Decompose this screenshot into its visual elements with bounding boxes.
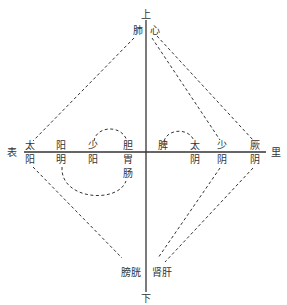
yang-yangming-bottom: 明 (56, 154, 66, 165)
label-right: 里 (271, 147, 281, 158)
organ-gallbladder: 胆 (123, 140, 133, 151)
six-channels-diagram: 上 下 表 里 肺 心 膀胱 肾肝 太 阳 阳 明 少 阳 胆 胃 肠 脾 太 … (0, 0, 287, 305)
label-left: 表 (7, 146, 17, 158)
yin-jueyin-bottom: 阴 (250, 154, 260, 165)
link-heart-shaoyin (152, 38, 220, 140)
yang-shaoyang-top: 少 (88, 140, 98, 151)
label-top: 上 (141, 9, 151, 20)
organ-lung: 肺 (133, 25, 143, 36)
yang-yangming-top: 阳 (56, 140, 66, 151)
yin-taiyin-bottom: 阴 (190, 154, 200, 165)
organ-spleen: 脾 (158, 139, 168, 151)
yin-taiyin-top: 太 (190, 139, 200, 151)
yang-taiyang-bottom: 阳 (25, 154, 35, 165)
organ-intestine: 肠 (123, 168, 133, 179)
organ-stomach: 胃 (123, 154, 133, 165)
yin-jueyin-top: 厥 (250, 140, 260, 151)
organ-kidney-liver: 肾肝 (152, 267, 172, 278)
yang-shaoyang-bottom: 阳 (88, 154, 98, 165)
link-jueyin-liver (165, 168, 253, 262)
link-lung-taiyang (33, 38, 134, 141)
yin-shaoyin-top: 少 (217, 140, 227, 151)
yin-shaoyin-bottom: 阴 (217, 154, 227, 165)
label-bottom: 下 (141, 293, 151, 304)
link-taiyang-bladder (33, 167, 122, 258)
link-heart-jueyin (157, 36, 253, 140)
arc-yangming-intestine (62, 167, 126, 196)
organ-bladder: 膀胱 (121, 266, 141, 278)
organ-heart: 心 (150, 25, 160, 36)
